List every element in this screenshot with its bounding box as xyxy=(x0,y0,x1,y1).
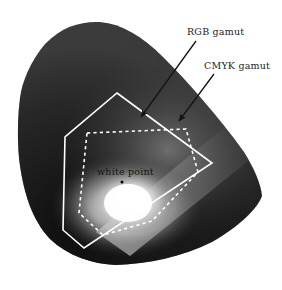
chromaticity-diagram-canvas xyxy=(0,0,282,290)
rgb-gamut-label: RGB gamut xyxy=(187,26,244,37)
white-point-marker xyxy=(121,181,124,184)
cmyk-gamut-label: CMYK gamut xyxy=(204,60,270,71)
chromaticity-diagram-figure: RGB gamut CMYK gamut white point xyxy=(0,0,282,290)
spectral-locus-shape xyxy=(0,0,282,290)
white-point-label: white point xyxy=(97,166,154,177)
